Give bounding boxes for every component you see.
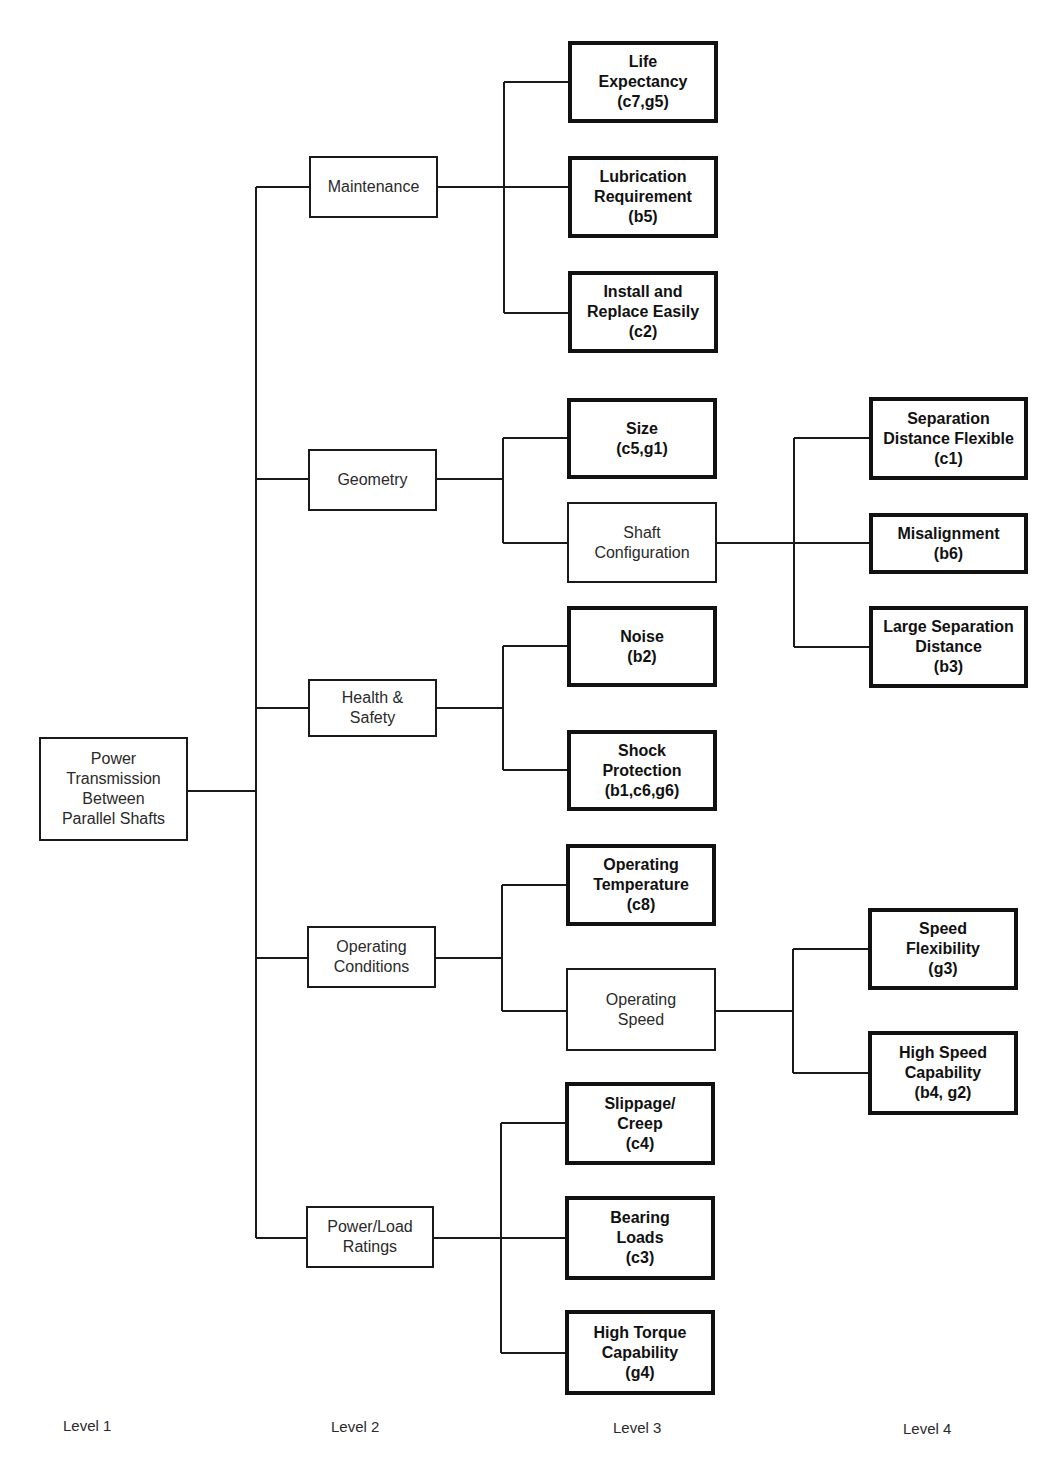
node-shaft-configuration: Shaft Configuration <box>567 502 717 583</box>
node-shock-protection: Shock Protection (b1,c6,g6) <box>567 730 717 811</box>
node-slippage-creep: Slippage/ Creep (c4) <box>565 1082 715 1165</box>
level-label-2: Level 2 <box>331 1418 379 1435</box>
node-operating-conditions: Operating Conditions <box>307 926 436 988</box>
node-high-torque-capability: High Torque Capability (g4) <box>565 1310 715 1395</box>
node-power-load-ratings: Power/Load Ratings <box>306 1206 434 1268</box>
node-operating-speed: Operating Speed <box>566 968 716 1051</box>
node-install-replace: Install and Replace Easily (c2) <box>568 271 718 353</box>
node-separation-distance-flexible: Separation Distance Flexible (c1) <box>869 397 1028 480</box>
node-maintenance: Maintenance <box>309 156 438 218</box>
node-operating-temperature: Operating Temperature (c8) <box>566 844 716 926</box>
connector-lines <box>0 0 1049 1471</box>
node-size: Size (c5,g1) <box>567 398 717 479</box>
node-geometry: Geometry <box>308 449 437 511</box>
level-label-3: Level 3 <box>613 1419 661 1436</box>
node-life-expectancy: Life Expectancy (c7,g5) <box>568 41 718 123</box>
root-node: Power Transmission Between Parallel Shaf… <box>39 737 188 841</box>
node-speed-flexibility: Speed Flexibility (g3) <box>868 908 1018 990</box>
node-lubrication-requirement: Lubrication Requirement (b5) <box>568 156 718 238</box>
node-noise: Noise (b2) <box>567 606 717 687</box>
node-bearing-loads: Bearing Loads (c3) <box>565 1196 715 1280</box>
level-label-1: Level 1 <box>63 1417 111 1434</box>
node-large-separation-distance: Large Separation Distance (b3) <box>869 606 1028 688</box>
node-misalignment: Misalignment (b6) <box>869 513 1028 574</box>
node-high-speed-capability: High Speed Capability (b4, g2) <box>868 1031 1018 1115</box>
level-label-4: Level 4 <box>903 1420 951 1437</box>
node-health-safety: Health & Safety <box>308 679 437 737</box>
